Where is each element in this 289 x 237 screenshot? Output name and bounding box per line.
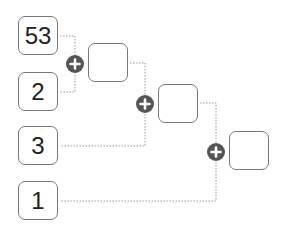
result-box-3[interactable]	[229, 131, 269, 170]
input-value: 3	[31, 132, 44, 160]
input-value: 1	[31, 187, 44, 215]
input-box-2[interactable]: 2	[18, 72, 58, 111]
plus-icon	[66, 55, 84, 73]
input-value: 53	[25, 22, 52, 50]
result-box-2[interactable]	[158, 84, 198, 123]
plus-icon	[136, 95, 154, 113]
input-value: 2	[31, 78, 44, 106]
input-box-3[interactable]: 3	[18, 126, 58, 165]
input-box-1[interactable]: 53	[18, 16, 58, 55]
input-box-4[interactable]: 1	[18, 181, 58, 220]
plus-icon	[207, 143, 225, 161]
result-box-1[interactable]	[88, 43, 128, 82]
